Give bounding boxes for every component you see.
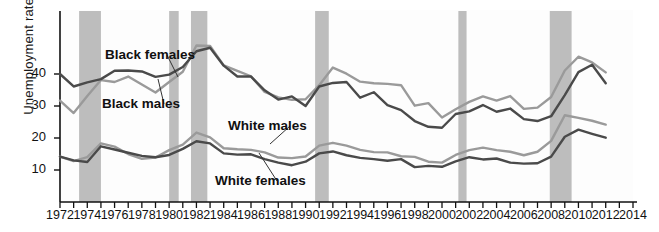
unemployment-line-chart [0, 0, 659, 232]
series-annotation-label: White males [228, 118, 307, 133]
series-annotation-label: White females [215, 173, 306, 188]
series-annotation-label: Black females [105, 47, 195, 62]
y-tick-label: 10 [20, 161, 46, 176]
recession-band [550, 11, 572, 202]
y-tick-label: 30 [20, 97, 46, 112]
y-tick-label: 20 [20, 129, 46, 144]
recession-band [315, 11, 329, 202]
recession-band [79, 11, 101, 202]
y-tick-label: 40 [20, 65, 46, 80]
series-annotation-label: Black males [102, 96, 180, 111]
x-tick-label: 2014 [613, 208, 653, 222]
recession-band [191, 11, 207, 202]
chart-container: Unemployment rate (percent) 102030401972… [0, 0, 659, 232]
